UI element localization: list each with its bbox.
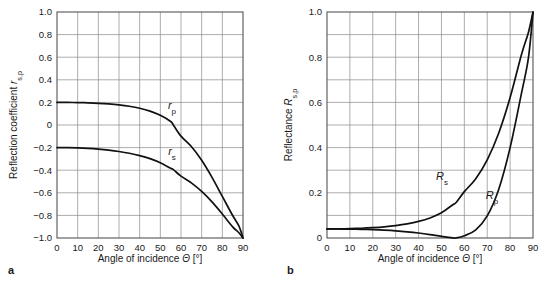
- panel-b-plot: 0102030405060708090 1.00.80.60.40.20 Ang…: [279, 0, 557, 282]
- x-tick-label: 80: [217, 242, 228, 253]
- x-tick-label: 50: [155, 242, 166, 253]
- svg-text:Angle of incidence Θ [°]: Angle of incidence Θ [°]: [378, 253, 483, 264]
- panel-a-letter: a: [8, 264, 14, 276]
- x-tick-label: 90: [528, 242, 539, 253]
- x-tick-label: 30: [114, 242, 125, 253]
- y-tick-label: 0.4: [39, 74, 52, 85]
- panel-b-xlabel-unit: [°]: [473, 253, 483, 264]
- panel-a-ylabel-sub: s,p: [15, 71, 24, 81]
- x-tick-label: 20: [93, 242, 104, 253]
- curve-label-R-p: Rp: [486, 189, 499, 206]
- panel-b-x-axis-title: Angle of incidence Θ [°]: [378, 253, 483, 264]
- x-tick-label: 50: [436, 242, 447, 253]
- y-tick-label: −1.0: [33, 232, 52, 243]
- x-tick-label: 0: [54, 242, 59, 253]
- panel-b-y-axis-title: Reflectance Rs,p: [283, 89, 299, 161]
- y-tick-label: −0.6: [33, 187, 52, 198]
- y-tick-label: 1.0: [309, 6, 322, 17]
- y-tick-label: 0.2: [39, 97, 52, 108]
- panel-a: 0102030405060708090 1.00.80.60.40.20−0.2…: [0, 0, 278, 282]
- panel-b-letter: b: [287, 264, 294, 276]
- curve-label-R-s: Rs: [436, 170, 448, 187]
- curve-label-R-s-sub: s: [444, 178, 448, 187]
- panel-a-xlabel-main: Angle of incidence: [98, 253, 180, 264]
- curve-label-R-p-sub: p: [494, 197, 499, 206]
- x-tick-label: 80: [505, 242, 516, 253]
- y-tick-label: −0.8: [33, 210, 52, 221]
- svg-text:Rs: Rs: [436, 170, 448, 187]
- y-tick-label: 1.0: [39, 6, 52, 17]
- x-tick-label: 10: [72, 242, 83, 253]
- y-tick-label: 0: [47, 119, 52, 130]
- svg-text:rp: rp: [168, 99, 177, 116]
- curve-label-R-p-symbol: R: [486, 189, 494, 201]
- panel-a-x-tick-labels: 0102030405060708090: [54, 242, 248, 253]
- svg-text:Rp: Rp: [486, 189, 499, 206]
- panel-a-plot: 0102030405060708090 1.00.80.60.40.20−0.2…: [0, 0, 278, 282]
- panel-a-y-tick-labels: 1.00.80.60.40.20−0.2−0.4−0.6−0.8−1.0: [33, 6, 52, 243]
- y-tick-label: 0.2: [309, 187, 322, 198]
- panel-a-y-axis-title: Reflection coefficient rs,p: [8, 71, 24, 179]
- curve-R-s: [327, 12, 533, 229]
- x-tick-label: 70: [482, 242, 493, 253]
- panel-b-y-tick-labels: 1.00.80.60.40.20: [309, 6, 322, 243]
- curve-label-R-s-symbol: R: [436, 170, 444, 182]
- y-tick-label: −0.2: [33, 142, 52, 153]
- x-tick-label: 90: [238, 242, 249, 253]
- curve-label-r-s-sub: s: [172, 153, 176, 162]
- x-tick-label: 30: [390, 242, 401, 253]
- x-tick-label: 40: [413, 242, 424, 253]
- svg-text:Reflection coefficient rs,p: Reflection coefficient rs,p: [8, 71, 24, 179]
- y-tick-label: −0.4: [33, 165, 52, 176]
- x-tick-label: 0: [324, 242, 329, 253]
- x-tick-label: 60: [176, 242, 187, 253]
- panel-b-x-tick-labels: 0102030405060708090: [324, 242, 538, 253]
- panel-a-x-axis-title: Angle of incidence Θ [°]: [98, 253, 203, 264]
- y-tick-label: 0: [317, 232, 322, 243]
- panel-b-ylabel-symbol: R: [283, 98, 294, 105]
- x-tick-label: 60: [459, 242, 470, 253]
- x-tick-label: 40: [134, 242, 145, 253]
- panel-b-ylabel-sub: s,p: [290, 89, 299, 99]
- y-tick-label: 0.4: [309, 142, 322, 153]
- x-tick-label: 20: [367, 242, 378, 253]
- y-tick-label: 0.6: [39, 52, 52, 63]
- x-tick-label: 10: [345, 242, 356, 253]
- curve-label-r-p: rp: [168, 99, 177, 116]
- panel-a-xlabel-unit: [°]: [193, 253, 203, 264]
- fresnel-reflection-figure: 0102030405060708090 1.00.80.60.40.20−0.2…: [0, 0, 557, 282]
- panel-a-ylabel-main: Reflection coefficient: [8, 87, 19, 179]
- panel-a-gridlines: [57, 12, 243, 238]
- panel-b: 0102030405060708090 1.00.80.60.40.20 Ang…: [279, 0, 557, 282]
- svg-text:Reflectance Rs,p: Reflectance Rs,p: [283, 89, 299, 161]
- panel-b-xlabel-main: Angle of incidence: [378, 253, 460, 264]
- y-tick-label: 0.8: [39, 29, 52, 40]
- curve-label-r-p-sub: p: [172, 107, 177, 116]
- panel-b-ylabel-main: Reflectance: [283, 108, 294, 161]
- y-tick-label: 0.8: [309, 52, 322, 63]
- y-tick-label: 0.6: [309, 97, 322, 108]
- x-tick-label: 70: [196, 242, 207, 253]
- svg-text:Angle of incidence Θ [°]: Angle of incidence Θ [°]: [98, 253, 203, 264]
